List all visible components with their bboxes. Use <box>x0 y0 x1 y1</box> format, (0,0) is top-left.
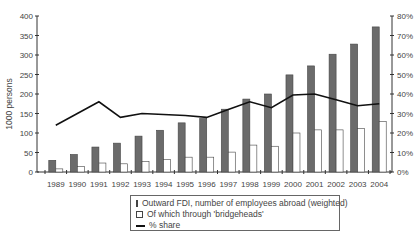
svg-text:0%: 0% <box>397 168 409 177</box>
svg-text:2003: 2003 <box>349 180 367 189</box>
svg-text:1990: 1990 <box>68 180 86 189</box>
svg-text:10%: 10% <box>397 149 413 158</box>
empty-bar-swatch-icon <box>136 211 143 218</box>
filled-bar-swatch-icon <box>136 200 138 207</box>
svg-text:1000 persons: 1000 persons <box>4 78 14 130</box>
svg-text:2001: 2001 <box>306 180 324 189</box>
svg-text:200: 200 <box>20 90 34 99</box>
legend-label: % share <box>149 220 180 231</box>
svg-text:50: 50 <box>24 149 33 158</box>
svg-text:50%: 50% <box>397 71 413 80</box>
svg-text:1997: 1997 <box>219 180 237 189</box>
svg-text:30%: 30% <box>397 110 413 119</box>
legend-item-fdi: Outward FDI, number of employees abroad … <box>136 198 334 209</box>
svg-text:100: 100 <box>20 129 34 138</box>
legend-item-bridgeheads: Of which through 'bridgeheads' <box>136 209 334 220</box>
svg-text:2004: 2004 <box>370 180 388 189</box>
svg-text:1992: 1992 <box>112 180 130 189</box>
legend-item-share: % share <box>136 220 334 231</box>
legend-label: Of which through 'bridgeheads' <box>147 209 264 220</box>
svg-text:70%: 70% <box>397 32 413 41</box>
svg-text:1991: 1991 <box>90 180 108 189</box>
svg-text:150: 150 <box>20 110 34 119</box>
svg-text:2000: 2000 <box>284 180 302 189</box>
svg-text:1998: 1998 <box>241 180 259 189</box>
line-swatch-icon <box>136 225 145 227</box>
chart-legend: Outward FDI, number of employees abroad … <box>130 195 340 231</box>
svg-text:1989: 1989 <box>47 180 65 189</box>
svg-text:80%: 80% <box>397 12 413 21</box>
svg-text:40%: 40% <box>397 90 413 99</box>
svg-text:250: 250 <box>20 71 34 80</box>
svg-text:1999: 1999 <box>263 180 281 189</box>
svg-text:350: 350 <box>20 32 34 41</box>
svg-text:0: 0 <box>29 168 34 177</box>
svg-text:300: 300 <box>20 51 34 60</box>
svg-text:1995: 1995 <box>176 180 194 189</box>
svg-text:60%: 60% <box>397 51 413 60</box>
svg-text:400: 400 <box>20 12 34 21</box>
svg-text:1994: 1994 <box>155 180 173 189</box>
svg-text:2002: 2002 <box>327 180 345 189</box>
svg-text:1996: 1996 <box>198 180 216 189</box>
svg-text:1993: 1993 <box>133 180 151 189</box>
legend-label: Outward FDI, number of employees abroad … <box>142 198 348 209</box>
svg-text:20%: 20% <box>397 129 413 138</box>
